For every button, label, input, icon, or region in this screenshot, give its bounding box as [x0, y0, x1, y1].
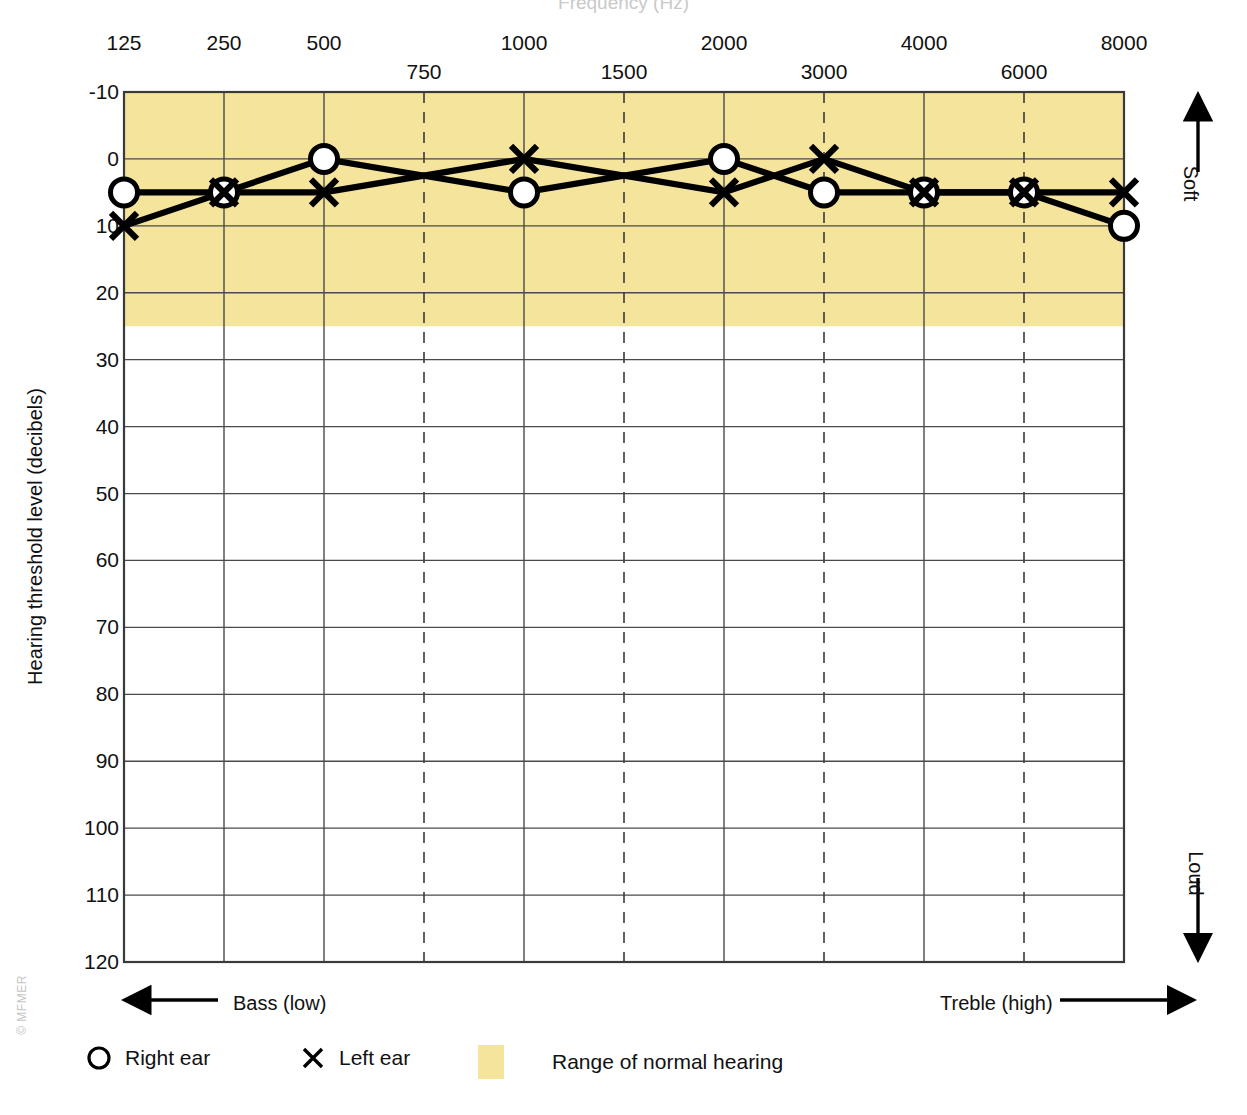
loud-direction-label: Loud	[1184, 851, 1207, 896]
legend-item-right-ear: Right ear	[86, 1045, 210, 1071]
legend-label-normal-range: Range of normal hearing	[552, 1050, 783, 1074]
bass-direction-label: Bass (low)	[233, 992, 326, 1015]
legend-item-normal-range: Range of normal hearing	[478, 1045, 783, 1079]
treble-direction-label: Treble (high)	[940, 992, 1053, 1015]
audiogram-plot	[0, 0, 1247, 1115]
x-marker-icon	[300, 1045, 326, 1071]
legend-label-left-ear: Left ear	[339, 1046, 410, 1070]
legend-item-left-ear: Left ear	[300, 1045, 410, 1071]
legend: Right ear Left ear Range of normal heari…	[0, 1040, 1247, 1100]
normal-hearing-band	[124, 92, 1124, 326]
normal-range-swatch	[478, 1045, 504, 1079]
legend-label-right-ear: Right ear	[125, 1046, 210, 1070]
soft-direction-label: Soft	[1179, 166, 1202, 202]
audiogram-figure: Frequency (Hz) 1252505001000200040008000…	[0, 0, 1247, 1115]
circle-marker-icon	[86, 1045, 112, 1071]
